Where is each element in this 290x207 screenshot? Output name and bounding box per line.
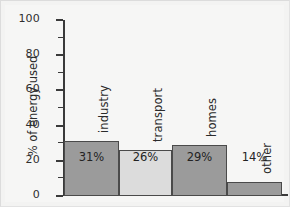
chart-canvas: % of energy used 020406080100 industry31… <box>5 5 284 202</box>
y-axis-tick-label: 100 <box>0 12 40 25</box>
y-axis-major-tick <box>56 160 63 162</box>
y-axis-major-tick <box>56 125 63 127</box>
bar-chart-figure: % of energy used 020406080100 industry31… <box>0 0 290 207</box>
y-axis-tick-label: 0 <box>0 188 40 201</box>
y-axis-tick-label: 20 <box>0 153 40 166</box>
y-axis-minor-tick <box>58 142 63 143</box>
y-axis-minor-tick <box>58 37 63 38</box>
y-axis-major-tick <box>56 19 63 21</box>
bar-other <box>227 182 282 196</box>
bar-value-label-industry: 31% <box>64 150 119 164</box>
bar-category-label-transport: transport <box>151 88 165 142</box>
plot-area: industry31%transport26%homes29%other14% <box>64 20 282 196</box>
y-axis-major-tick <box>56 54 63 56</box>
bar-category-label-homes: homes <box>205 98 219 137</box>
y-axis-tick-label: 60 <box>0 82 40 95</box>
bar-value-label-transport: 26% <box>119 150 172 164</box>
y-axis-minor-tick <box>58 107 63 108</box>
bar-value-label-homes: 29% <box>172 150 227 164</box>
y-axis-major-tick <box>56 89 63 91</box>
bar-value-label-other: 14% <box>227 150 282 164</box>
y-axis-major-tick <box>56 195 63 197</box>
y-axis-minor-tick <box>58 72 63 73</box>
bar-category-label-industry: industry <box>97 86 111 134</box>
y-axis-minor-tick <box>58 177 63 178</box>
y-axis-tick-label: 80 <box>0 47 40 60</box>
y-axis-tick-label: 40 <box>0 118 40 131</box>
